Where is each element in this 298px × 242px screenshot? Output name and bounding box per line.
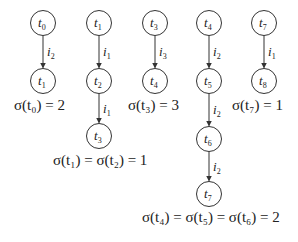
node-t3: t3 — [87, 124, 112, 149]
sigma-formula: σ(t₀) = 2 — [14, 97, 65, 114]
edge-label: i1 — [103, 44, 111, 61]
node-t8: t8 — [252, 69, 277, 94]
sigma-formula: σ(t₄) = σ(t₅) = σ(t₆) = 2 — [142, 209, 280, 226]
edge-arrow: i1 — [99, 36, 111, 68]
node-t1: t1 — [31, 69, 56, 94]
edge-label: i3 — [159, 44, 167, 61]
edge-label: i2 — [213, 44, 221, 61]
sigma-formula: σ(t₇) = 1 — [232, 97, 283, 114]
node-t1: t1 — [87, 11, 112, 36]
edge-arrow: i2 — [209, 152, 221, 181]
node-t7: t7 — [252, 11, 277, 36]
node-t4: t4 — [143, 69, 168, 94]
node-t3: t3 — [143, 11, 168, 36]
diagram-canvas: i2i1i1i3i2i2i2i1 t0t1t1t2t3t3t4t4t5t6t7t… — [0, 0, 298, 242]
node-t0: t0 — [31, 11, 56, 36]
node-t6: t6 — [197, 127, 222, 152]
edge-label: i1 — [103, 101, 111, 118]
edge-arrow: i3 — [155, 36, 167, 68]
node-t7: t7 — [197, 182, 222, 207]
edge-arrow: i2 — [209, 94, 221, 126]
edge-label: i2 — [213, 159, 221, 176]
edge-arrow: i1 — [99, 94, 111, 123]
node-t5: t5 — [197, 69, 222, 94]
sigma-formula: σ(t₃) = 3 — [128, 97, 179, 114]
node-t2: t2 — [87, 69, 112, 94]
node-t4: t4 — [197, 11, 222, 36]
sigma-formula: σ(t₁) = σ(t₂) = 1 — [53, 152, 147, 169]
edge-arrow: i2 — [209, 36, 221, 68]
edge-arrow: i1 — [264, 36, 276, 68]
edge-label: i2 — [213, 102, 221, 119]
edge-label: i1 — [268, 44, 276, 61]
edge-arrow: i2 — [43, 36, 55, 68]
edge-label: i2 — [47, 44, 55, 61]
